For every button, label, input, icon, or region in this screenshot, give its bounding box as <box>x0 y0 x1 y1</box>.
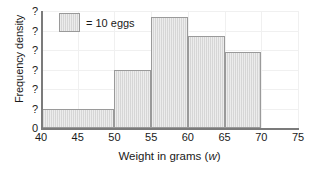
histogram-bar <box>188 36 225 128</box>
y-axis-tick-label: ? <box>24 104 38 115</box>
legend-label: = 10 eggs <box>86 17 135 29</box>
y-axis-line <box>41 11 43 129</box>
x-axis-title-suffix: ) <box>217 150 221 162</box>
legend: = 10 eggs <box>59 13 135 32</box>
histogram-bar <box>114 70 151 129</box>
x-axis-tick-label: 45 <box>66 131 90 144</box>
y-axis-tick-label: ? <box>24 45 38 56</box>
legend-swatch-icon <box>59 13 80 32</box>
x-axis-title-prefix: Weight in grams ( <box>118 150 208 162</box>
x-axis-tick-labels: 4045505560657075 <box>0 131 315 147</box>
x-axis-tick-label: 70 <box>249 131 273 144</box>
gridline-vertical <box>261 11 262 128</box>
y-axis-tick-label: ? <box>24 84 38 95</box>
x-axis-line <box>41 128 299 130</box>
y-axis-tick-label: ? <box>24 6 38 17</box>
x-axis-tick-label: 55 <box>139 131 163 144</box>
x-axis-tick-label: 50 <box>102 131 126 144</box>
y-axis-tick-label: ? <box>24 65 38 76</box>
gridline-vertical <box>298 11 299 128</box>
x-axis-tick-label: 65 <box>213 131 237 144</box>
histogram-bar <box>151 17 188 128</box>
x-axis-title-variable: w <box>208 150 216 162</box>
y-axis-tick-labels: 0?????? <box>22 0 38 173</box>
x-axis-tick-label: 75 <box>286 131 310 144</box>
histogram-bar <box>41 109 114 129</box>
x-axis-tick-label: 40 <box>29 131 53 144</box>
histogram-bar <box>225 52 262 128</box>
histogram-chart: Frequency density 0?????? 40455055606570… <box>0 0 315 173</box>
x-axis-tick-label: 60 <box>176 131 200 144</box>
y-axis-tick-label: ? <box>24 26 38 37</box>
x-axis-title: Weight in grams (w) <box>41 150 298 163</box>
gridline-horizontal <box>41 11 298 12</box>
